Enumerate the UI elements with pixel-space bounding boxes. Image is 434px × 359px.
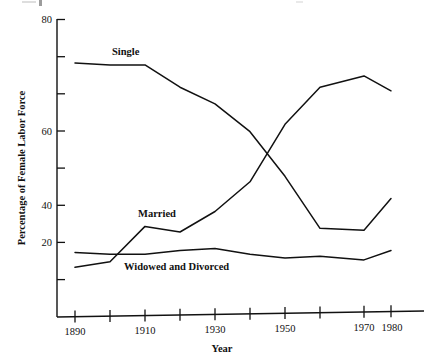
- y-axis-title: Percentage of Female Labor Force: [16, 90, 27, 245]
- series-label-single: Single: [112, 46, 140, 57]
- y-tick-label-80: 80: [42, 14, 53, 25]
- x-tick-label-1910: 1910: [135, 325, 156, 336]
- series-label-widowed-divorced: Widowed and Divorced: [124, 261, 229, 272]
- chart-figure: 80 60 40 20 1890 1910 1930 1950 1970 198…: [0, 0, 434, 359]
- y-tick-label-60: 60: [42, 126, 53, 137]
- x-tick-labels: 1890 1910 1930 1950 1970 1980: [65, 322, 403, 337]
- series-line-widowed-divorced: [75, 249, 391, 260]
- x-tick-label-1980: 1980: [382, 322, 403, 333]
- x-axis-title: Year: [212, 343, 233, 354]
- x-tick-label-1890: 1890: [65, 326, 86, 337]
- chart-canvas: 80 60 40 20 1890 1910 1930 1950 1970 198…: [0, 0, 434, 359]
- y-tick-label-20: 20: [42, 237, 53, 248]
- series-line-married: [75, 76, 391, 267]
- x-tick-label-1950: 1950: [275, 323, 296, 334]
- x-tick-label-1930: 1930: [205, 324, 226, 335]
- y-tick-labels: 80 60 40 20: [42, 14, 53, 248]
- x-tick-label-1970: 1970: [354, 322, 375, 333]
- series-label-married: Married: [138, 208, 176, 219]
- series-line-single: [75, 63, 391, 230]
- y-tick-label-40: 40: [42, 200, 53, 211]
- x-axis: [57, 305, 424, 322]
- y-axis: [57, 19, 65, 317]
